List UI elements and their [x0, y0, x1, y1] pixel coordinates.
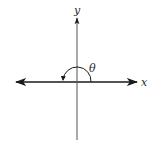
coordinate-plane-svg: y x θ: [0, 0, 153, 150]
x-axis-label: x: [141, 76, 148, 89]
y-axis-label: y: [73, 4, 81, 17]
theta-label: θ: [89, 62, 96, 75]
coordinate-plane-figure: y x θ: [0, 0, 153, 150]
